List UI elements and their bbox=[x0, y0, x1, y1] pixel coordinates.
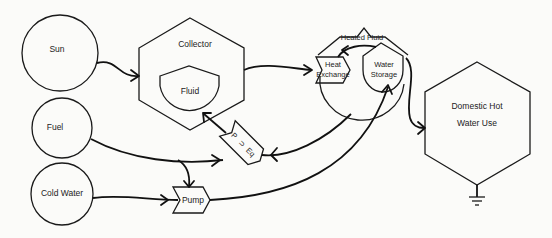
node-fuel: Fuel bbox=[32, 98, 92, 158]
domestic-hot-water-label-1: Domestic Hot bbox=[451, 101, 503, 111]
collector-label: Collector bbox=[178, 39, 212, 49]
flow-fuel-to-pump bbox=[178, 160, 194, 187]
pump-label: Pump bbox=[182, 195, 204, 205]
p-eq-label-eq: Eq bbox=[244, 146, 257, 159]
domestic-hot-water-label-2: Water Use bbox=[457, 118, 497, 128]
flow-heated-fluid-to-p-eq bbox=[262, 114, 351, 161]
energy-flow-diagram: Sun Fuel Cold Water Collector Fluid P ⊃ … bbox=[0, 0, 552, 238]
water-storage-label-1: Water bbox=[374, 60, 394, 69]
fluid-label: Fluid bbox=[181, 86, 200, 96]
flow-collector-to-heat-exchange bbox=[244, 65, 312, 75]
heated-fluid-label: Heated Fluid bbox=[341, 33, 384, 42]
node-domestic-hot-water-use: Domestic Hot Water Use bbox=[425, 62, 530, 185]
flow-fuel-to-p-eq bbox=[91, 139, 223, 166]
fuel-label: Fuel bbox=[47, 122, 64, 132]
heat-exchange-label-2: Exchange bbox=[316, 70, 349, 79]
p-eq-label-symbol: ⊃ bbox=[236, 138, 247, 149]
node-heat-exchange: Heat Exchange bbox=[316, 57, 350, 83]
node-cold-water: Cold Water bbox=[31, 163, 93, 225]
heat-sink-ground-icon bbox=[469, 185, 485, 205]
node-collector: Collector bbox=[139, 18, 244, 130]
water-storage-label-2: Storage bbox=[371, 70, 397, 79]
flow-cold-water-to-pump bbox=[93, 195, 178, 205]
flow-water-storage-to-domestic-use bbox=[406, 58, 425, 134]
flow-sun-to-collector bbox=[97, 62, 139, 81]
sun-label: Sun bbox=[49, 44, 64, 54]
node-sun: Sun bbox=[22, 15, 98, 91]
node-pump: Pump bbox=[173, 187, 210, 213]
node-p-eq: P ⊃ Eq bbox=[220, 121, 268, 169]
node-fluid: Fluid bbox=[160, 66, 219, 111]
node-water-storage: Water Storage bbox=[363, 43, 403, 92]
heat-exchange-label-1: Heat bbox=[325, 60, 342, 69]
cold-water-label: Cold Water bbox=[41, 188, 83, 198]
